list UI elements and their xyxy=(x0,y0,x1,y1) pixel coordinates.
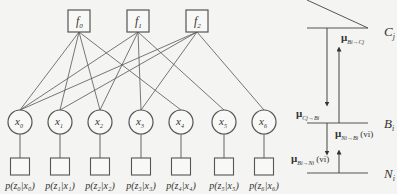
factor-node-f2: f2 xyxy=(186,10,208,32)
likelihood-node-1: p(z₁|x₁) xyxy=(44,134,75,192)
factor-edge xyxy=(138,32,141,110)
likelihood-node-5: p(z₅|x₅) xyxy=(208,134,239,192)
level-label-b: Bi xyxy=(384,116,394,133)
svg-text:p(z₅|x₅): p(z₅|x₅) xyxy=(208,180,239,192)
variable-node-x2: x2 xyxy=(88,110,112,134)
factor-node-f1: f1 xyxy=(127,10,149,32)
variable-node-x0: x0 xyxy=(8,110,32,134)
factor-node-f0: f0 xyxy=(68,10,90,32)
message-n-to-b: μNi→Bi(vi) xyxy=(335,127,373,141)
likelihood-node-3: p(z₃|x₃) xyxy=(125,134,156,192)
variable-node-x3: x3 xyxy=(129,110,153,134)
likelihood-node-6: p(z₆|x₆) xyxy=(248,134,279,192)
likelihood-node-4: p(z₄|x₄) xyxy=(165,134,196,192)
variable-node-x6: x6 xyxy=(252,110,276,134)
svg-text:p(z₀|x₀): p(z₀|x₀) xyxy=(4,180,35,192)
factor-edge xyxy=(60,32,197,110)
message-b-to-n: μBi→Ni(vi) xyxy=(291,152,329,166)
message-passing-panel: Cj Bi Ni μBi→Cj μCj→Bi μNi→Bi(vi) μBi→Ni… xyxy=(291,0,396,183)
svg-text:p(z₆|x₆): p(z₆|x₆) xyxy=(248,180,279,192)
factor-edge xyxy=(79,32,100,110)
svg-text:p(z₄|x₄): p(z₄|x₄) xyxy=(165,180,196,192)
svg-text:p(z₃|x₃): p(z₃|x₃) xyxy=(125,180,156,192)
level-line-c xyxy=(307,0,368,28)
factor-edges xyxy=(20,32,264,110)
variable-node-x4: x4 xyxy=(169,110,193,134)
factor-edge xyxy=(138,32,224,110)
factor-graph-diagram: f0f1f2 x0x1x2x3x4x5x6 p(z₀|x₀)p(z₁|x₁)p(… xyxy=(0,0,397,194)
likelihood-node-2: p(z₂|x₂) xyxy=(84,134,115,192)
factor-edge xyxy=(20,32,79,110)
factor-nodes: f0f1f2 xyxy=(68,10,208,32)
factor-edge xyxy=(100,32,138,110)
factor-edge xyxy=(141,32,197,110)
factor-edge xyxy=(197,32,264,110)
likelihood-node-0: p(z₀|x₀) xyxy=(4,134,35,192)
level-label-n: Ni xyxy=(383,166,395,183)
likelihood-nodes: p(z₀|x₀)p(z₁|x₁)p(z₂|x₂)p(z₃|x₃)p(z₄|x₄)… xyxy=(4,134,279,192)
message-c-to-b: μCj→Bi xyxy=(296,107,320,121)
variable-node-x1: x1 xyxy=(48,110,72,134)
variable-node-x5: x5 xyxy=(212,110,236,134)
svg-text:p(z₂|x₂): p(z₂|x₂) xyxy=(84,180,115,192)
variable-nodes: x0x1x2x3x4x5x6 xyxy=(8,110,276,134)
factor-edge xyxy=(20,32,138,110)
factor-edge xyxy=(20,32,197,110)
message-b-to-c: μBi→Cj xyxy=(341,31,365,45)
svg-text:p(z₁|x₁): p(z₁|x₁) xyxy=(44,180,75,192)
factor-edge xyxy=(60,32,79,110)
factor-edge xyxy=(79,32,181,110)
level-label-c: Cj xyxy=(384,24,396,41)
